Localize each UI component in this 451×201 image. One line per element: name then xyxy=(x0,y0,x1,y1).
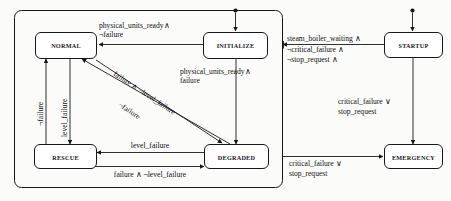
state-diagram-canvas: NORMAL INITIALIZE STARTUP RESCUE DEGRADE… xyxy=(0,0,451,201)
label-startup-to-normal: steam_boiler_waiting ∧ ¬critical_failure… xyxy=(287,34,361,64)
label-startup-to-emergency-line1: critical_failure ∨ xyxy=(338,97,391,106)
state-normal[interactable]: NORMAL xyxy=(36,33,97,59)
label-startup-to-normal-line3: ¬stop_request ∧ xyxy=(287,55,338,64)
label-initialize-to-normal-line2: ¬failure xyxy=(99,30,124,39)
label-initialize-to-degraded-line2: failure xyxy=(180,76,200,85)
initialize-entry-dot xyxy=(233,8,237,12)
state-rescue-label: RESCUE xyxy=(52,154,79,161)
label-startup-to-normal-line1: steam_boiler_waiting ∧ xyxy=(287,34,361,43)
state-diagram: NORMAL INITIALIZE STARTUP RESCUE DEGRADE… xyxy=(0,0,451,201)
label-initialize-to-normal-line1: physical_units_ready∧ xyxy=(99,21,170,30)
state-emergency-label: EMERGENCY xyxy=(392,154,435,161)
state-degraded[interactable]: DEGRADED xyxy=(205,145,269,169)
label-region-to-emergency-line1: critical_failure ∨ xyxy=(289,159,342,168)
label-initialize-to-degraded-line1: physical_units_ready∧ xyxy=(180,67,251,76)
label-normal-to-rescue: level_failure xyxy=(60,98,69,137)
label-rescue-to-normal: ¬failure xyxy=(36,101,45,126)
state-initialize-label: INITIALIZE xyxy=(217,42,255,49)
label-rescue-to-degraded: failure ∧ ¬level_failure xyxy=(114,170,187,179)
state-degraded-label: DEGRADED xyxy=(218,154,256,161)
label-region-to-emergency: critical_failure ∨ stop_request xyxy=(289,159,342,178)
label-initialize-to-degraded: physical_units_ready∧ failure xyxy=(180,67,251,85)
label-degraded-to-normal: ¬failure xyxy=(117,100,143,121)
startup-entry-dot xyxy=(410,8,414,12)
state-startup[interactable]: STARTUP xyxy=(385,33,443,58)
state-startup-label: STARTUP xyxy=(399,42,429,49)
state-rescue[interactable]: RESCUE xyxy=(35,145,97,169)
state-initialize[interactable]: INITIALIZE xyxy=(204,33,268,59)
label-startup-to-emergency-line2: stop_request xyxy=(338,107,377,116)
state-emergency[interactable]: EMERGENCY xyxy=(385,145,443,169)
state-normal-label: NORMAL xyxy=(51,42,81,49)
label-region-to-emergency-line2: stop_request xyxy=(289,169,328,178)
label-startup-to-normal-line2: ¬critical_failure ∧ xyxy=(287,45,344,54)
label-startup-to-emergency: critical_failure ∨ stop_request xyxy=(338,97,391,116)
label-initialize-to-normal: physical_units_ready∧ ¬failure xyxy=(99,21,170,39)
label-degraded-to-rescue: level_failure xyxy=(131,141,170,150)
